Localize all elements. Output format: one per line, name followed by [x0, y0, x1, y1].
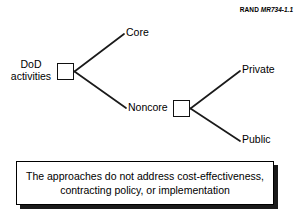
connector-root-to-core	[75, 34, 125, 72]
tree-label-private: Private	[242, 64, 275, 76]
tree-label-dod-activities-line1: DoD	[8, 59, 54, 71]
tree-label-noncore: Noncore	[128, 102, 168, 114]
tree-node-root	[57, 63, 74, 80]
rand-tree-diagram-figure: RAND MR734-1.1 DoD activities Core Nonco…	[0, 0, 302, 223]
tree-node-noncore	[173, 100, 190, 117]
caption-box: The approaches do not address cost-effec…	[16, 161, 274, 205]
tree-label-core: Core	[126, 27, 149, 39]
tree-label-public: Public	[242, 134, 271, 146]
caption-line-2: contracting policy, or implementation	[60, 183, 230, 197]
connector-noncore-to-public	[191, 109, 241, 142]
caption-line-1: The approaches do not address cost-effec…	[26, 169, 264, 183]
connector-root-to-noncore	[75, 72, 127, 109]
tree-label-dod-activities-line2: activities	[8, 71, 54, 83]
connector-noncore-to-private	[191, 71, 241, 109]
tree-label-dod-activities: DoD activities	[8, 59, 54, 82]
